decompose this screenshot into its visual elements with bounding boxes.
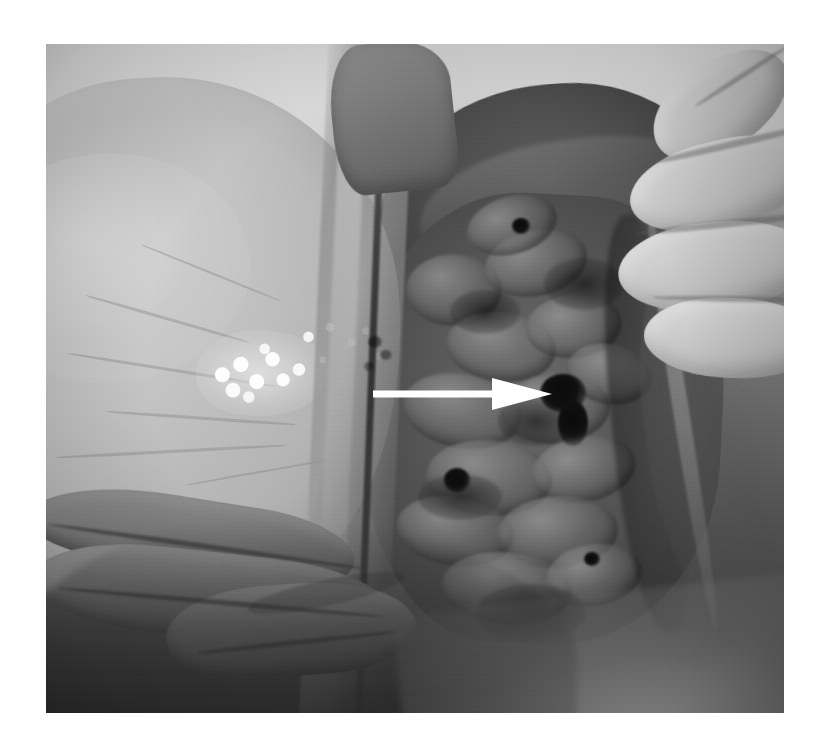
dark-focal-lesion [512, 218, 530, 234]
edge-nodule [368, 336, 382, 348]
reflected-tissue-flap [324, 44, 461, 198]
dark-focal-lesion [444, 468, 470, 492]
figure-root: Black and white gross pathology photogra… [0, 0, 824, 753]
gross-pathology-photograph [46, 44, 784, 713]
dark-focal-lesion [558, 400, 588, 446]
dark-focal-lesion [584, 552, 600, 566]
edge-nodule [364, 362, 374, 371]
edge-nodule [380, 350, 392, 360]
bowel-interloop-shadow [450, 290, 520, 334]
